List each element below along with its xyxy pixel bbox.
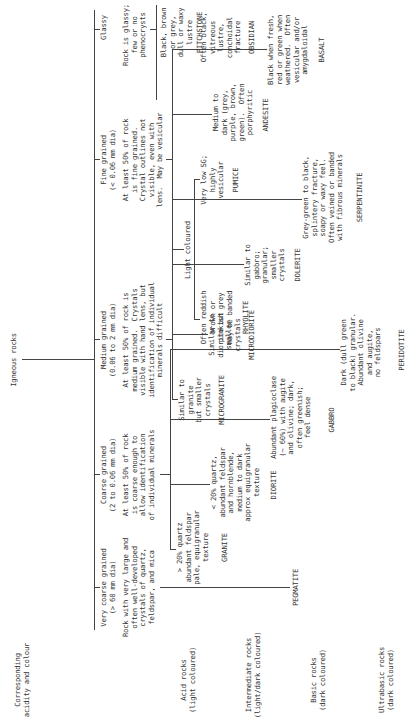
very-coarse-desc: Rock with very large and often well-deve… (122, 535, 156, 640)
rock-peridotite: PERIDOTITE (398, 315, 407, 385)
basalt-desc: Black when fresh, red or green when weat… (267, 5, 310, 95)
main-trunk (94, 10, 95, 630)
coarse-branch (170, 350, 171, 550)
glassy-branch (156, 5, 157, 100)
andesite-desc: Medium to dark (grey, purple, brown, gre… (212, 75, 255, 150)
diorite-desc: < 20% quartz, abundant feldspar and horn… (210, 440, 262, 525)
gabbro-desc: Abundant plagioclase (~ 60%) with augite… (270, 370, 313, 465)
rock-gabbro: GABBRO (328, 390, 337, 450)
fine-desc: At least 50% of rock is fine grained. Cr… (122, 100, 165, 220)
rock-basalt: BASALT (318, 20, 327, 80)
light-coloured-label: Light coloured (184, 210, 193, 290)
microgranite-desc: Similar to granite but smaller crystals (178, 365, 212, 435)
fine-branch (172, 50, 173, 250)
row-label-basic: Basic rocks (dark coloured) (310, 640, 327, 720)
fine-title: Fine grained (< 0.06 mm dia) (100, 110, 117, 210)
coarse-desc: At least 50% of rock is coarse enough to… (122, 420, 156, 530)
glassy-desc: Rock is glassy; few or no phenocrysts (122, 0, 148, 70)
rock-obsidian: OBSIDIAN (248, 5, 257, 70)
very-coarse-title: Very coarse grained (> 60 mm dia) (100, 545, 117, 630)
coarse-title: Coarse grained (2 to 0.06 mm dia) (100, 425, 117, 525)
rock-pitchstone: PITCHSTONE (196, 0, 205, 65)
igneous-rock-classification-diagram: Igneous rocks Corresponding acidity and … (0, 0, 417, 720)
row-label-ultrabasic: Ultrabasic rocks (dark coloured) (378, 640, 395, 720)
very-coarse-line (160, 587, 290, 588)
glassy-title: Glassy (100, 0, 109, 55)
pitchstone-desc: Black, brown or grey, dull or waxy lustr… (160, 0, 194, 65)
rock-pumice: PUMICE (232, 150, 241, 210)
medium-title: Medium grained (0.06 to 2 mm dia) (100, 290, 117, 390)
rock-serpentinite: SERPENTINITE (356, 160, 365, 235)
medium-desc: At least 50% of rock is medium grained. … (122, 275, 165, 405)
serpentinite-desc: Grey-green to black, splintery fracture,… (302, 140, 345, 255)
peridotite-desc: Dark (dull green to black) granular. Abu… (340, 310, 383, 395)
root-stem (22, 359, 94, 360)
granite-desc: > 20% quartz abundant feldspar pale, equ… (176, 510, 210, 585)
pumice-desc: Very low SG; highly vesicular (200, 145, 226, 215)
rock-microgranite: MICROGRANITE (218, 360, 227, 440)
row-label-acid: Acid rocks (light coloured) (180, 640, 197, 720)
row-header: Corresponding acidity and colour (14, 640, 31, 720)
rock-pegmatite: PEGMATITE (292, 555, 301, 620)
rhyolite-desc: Often reddish brown or pinkish grey may … (200, 280, 234, 355)
obsidian-desc: Often black, vitreous lustre, conchoidal… (200, 5, 243, 70)
root-label: Igneous rocks (10, 320, 19, 400)
rock-rhyolite: RHYOLITE (242, 285, 251, 350)
row-label-intermediate: Intermediate rocks (light/dark coloured) (245, 630, 262, 720)
